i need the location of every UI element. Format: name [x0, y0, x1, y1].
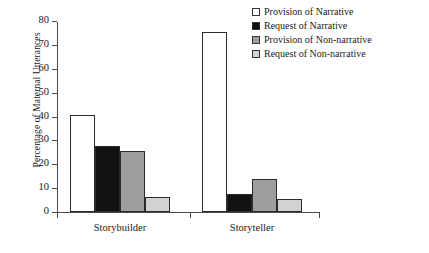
y-tick-50: 50 [52, 93, 57, 94]
legend-label-1: Request of Narrative [264, 21, 347, 31]
y-tick-10: 10 [52, 188, 57, 189]
y-tick-30: 30 [52, 140, 57, 141]
bar-storyteller-request-of-narrative [227, 194, 252, 212]
y-tick-label-50: 50 [39, 86, 50, 97]
legend-swatch-icon-2 [252, 36, 260, 44]
legend-item-0: Provision of Narrative [252, 5, 372, 19]
bar-storybuilder-provision-of-non-narrative [120, 151, 145, 212]
bar-storybuilder-request-of-narrative [95, 146, 120, 212]
y-tick-20: 20 [52, 164, 57, 165]
y-tick-label-0: 0 [44, 205, 49, 216]
legend-label-2: Provision of Non-narrative [264, 35, 372, 45]
bar-storyteller-provision-of-non-narrative [252, 179, 277, 212]
legend-swatch-icon-0 [252, 8, 260, 16]
chart-legend: Provision of NarrativeRequest of Narrati… [252, 5, 372, 61]
legend-label-3: Request of Non-narrative [264, 49, 366, 59]
y-tick-label-70: 70 [39, 38, 50, 49]
y-tick-80: 80 [52, 21, 57, 22]
bar-storyteller-request-of-non-narrative [277, 199, 302, 212]
y-tick-40: 40 [52, 117, 57, 118]
x-tick-1 [190, 213, 191, 218]
legend-item-1: Request of Narrative [252, 19, 372, 33]
x-tick-0 [57, 213, 58, 218]
bar-storybuilder-provision-of-narrative [70, 115, 95, 212]
x-axis-line [57, 212, 320, 213]
bar-storybuilder-request-of-non-narrative [145, 197, 170, 212]
x-tick-2 [319, 213, 320, 218]
y-axis-line [57, 22, 58, 213]
y-tick-60: 60 [52, 69, 57, 70]
legend-swatch-icon-3 [252, 50, 260, 58]
y-axis-label: Percentage of Maternal Utterances [32, 0, 42, 200]
legend-label-0: Provision of Narrative [264, 7, 353, 17]
legend-item-2: Provision of Non-narrative [252, 33, 372, 47]
legend-swatch-icon-1 [252, 22, 260, 30]
bar-storyteller-provision-of-narrative [202, 32, 227, 212]
y-tick-label-10: 10 [39, 181, 50, 192]
y-tick-label-20: 20 [39, 157, 50, 168]
y-tick-label-40: 40 [39, 110, 50, 121]
y-tick-label-30: 30 [39, 133, 50, 144]
legend-item-3: Request of Non-narrative [252, 47, 372, 61]
x-axis-label-storybuilder: Storybuilder [60, 222, 180, 233]
y-tick-70: 70 [52, 45, 57, 46]
y-tick-label-80: 80 [39, 14, 50, 25]
bar-chart-figure: Percentage of Maternal Utterances 010203… [0, 0, 429, 253]
y-tick-label-60: 60 [39, 62, 50, 73]
x-axis-label-storyteller: Storyteller [192, 222, 312, 233]
